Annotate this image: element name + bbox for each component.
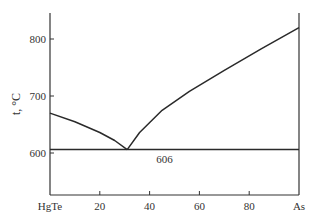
y-tick-label: 700 xyxy=(30,90,47,102)
x-tick-label: As xyxy=(293,200,305,212)
axes xyxy=(50,13,299,195)
y-tick-label: 800 xyxy=(30,33,47,45)
ticks xyxy=(50,39,249,195)
x-tick-label: 80 xyxy=(244,200,256,212)
series-lines xyxy=(50,28,299,150)
tick-labels: 600700800HgTe20406080As xyxy=(30,33,306,212)
x-tick-label: 20 xyxy=(94,200,106,212)
phase-diagram-chart: 600700800HgTe20406080As 606 t, °C xyxy=(0,0,320,221)
x-tick-label: 60 xyxy=(194,200,206,212)
x-tick-label: 40 xyxy=(144,200,156,212)
eutectic-temperature-label: 606 xyxy=(156,153,173,165)
annotations: 606 xyxy=(156,153,173,165)
series-liquidus xyxy=(50,28,299,150)
x-tick-label: HgTe xyxy=(38,200,62,212)
y-axis-label: t, °C xyxy=(9,93,23,115)
y-tick-label: 600 xyxy=(30,147,47,159)
